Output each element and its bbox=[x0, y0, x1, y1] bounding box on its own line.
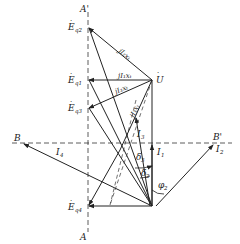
svg-text:q1: q1 bbox=[75, 80, 82, 87]
svg-text:3: 3 bbox=[141, 134, 145, 140]
label-delta2: δ 2 bbox=[141, 168, 150, 179]
svg-text:1: 1 bbox=[161, 152, 165, 158]
svg-text:q2: q2 bbox=[75, 27, 83, 34]
label-U: U · bbox=[156, 69, 164, 85]
label-Eq1: E q1 · bbox=[67, 70, 82, 87]
svg-text:·: · bbox=[70, 17, 72, 25]
label-Eq4: E q4 · bbox=[67, 197, 83, 214]
svg-text:3: 3 bbox=[141, 157, 145, 163]
svg-text:q4: q4 bbox=[75, 207, 83, 214]
svg-text:2: 2 bbox=[145, 173, 150, 179]
label-B: B bbox=[13, 133, 21, 143]
label-Eq3: E q3 · bbox=[67, 98, 83, 115]
svg-text:q3: q3 bbox=[75, 108, 83, 115]
current-phasor-I2 bbox=[156, 145, 213, 206]
label-A-prime: A' bbox=[79, 4, 89, 14]
label-jI3xt-b: jI₃xₜ bbox=[128, 103, 142, 121]
label-phi2: φ 2 bbox=[158, 180, 168, 191]
label-Eq2: E q2 · bbox=[67, 17, 83, 34]
label-I3: I 3 bbox=[136, 129, 145, 140]
label-B-prime: B' bbox=[212, 132, 222, 142]
label-I1: I 1 bbox=[156, 147, 165, 158]
label-jI3xt-a: jI₃xₜ bbox=[112, 83, 130, 96]
label-I4: I 4 bbox=[55, 147, 64, 158]
label-I2: I 2 bbox=[215, 144, 224, 155]
svg-text:·: · bbox=[70, 197, 72, 205]
label-delta3: δ 3 bbox=[136, 152, 145, 163]
svg-text:·: · bbox=[70, 70, 72, 78]
helper-dashed-1 bbox=[110, 80, 152, 205]
label-jI2xt: jI₂xₜ bbox=[115, 46, 132, 62]
svg-text:·: · bbox=[70, 98, 72, 106]
angle-arc-phi2 bbox=[152, 190, 164, 194]
label-A: A bbox=[79, 232, 87, 242]
svg-text:4: 4 bbox=[59, 152, 64, 158]
label-jI1xt: jI₁xₜ bbox=[116, 72, 132, 80]
svg-text:2: 2 bbox=[219, 149, 224, 155]
svg-text:2: 2 bbox=[163, 185, 168, 191]
phasor-diagram: A' A B B' U · E q2 · E q1 · E q3 bbox=[0, 0, 240, 244]
svg-text:·: · bbox=[157, 69, 159, 77]
